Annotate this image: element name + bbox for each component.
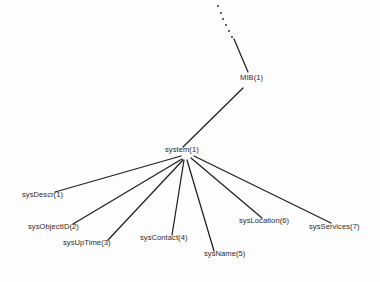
- ancestor-dot-3: [225, 24, 227, 26]
- mib-tree-diagram: MIB(1) system(1) sysDescr(1) sysObjectID…: [0, 0, 380, 282]
- edge-system-to-sys_uptime: [108, 160, 183, 240]
- node-label-sys-contact: sysContact(4): [140, 233, 188, 242]
- edge-system-to-sys_services: [194, 156, 331, 223]
- node-label-sys-location: sysLocation(6): [239, 216, 289, 225]
- node-label-sys-object-id: sysObjectID(2): [28, 222, 79, 231]
- node-label-mib: MIB(1): [240, 73, 263, 82]
- ancestor-dot-1: [220, 12, 222, 14]
- ancestor-dot-2: [222, 18, 224, 20]
- node-label-sys-uptime: sysUpTime(3): [63, 238, 111, 247]
- edge-mib-to-system: [183, 88, 243, 147]
- edge-system-to-sys_descr: [55, 156, 181, 192]
- ancestor-dot-4: [228, 30, 230, 32]
- node-label-system: system(1): [165, 145, 199, 154]
- ancestor-dot-0: [217, 5, 219, 7]
- ancestor-dot-5: [231, 36, 233, 38]
- dashed-ancestor-line: [217, 5, 233, 38]
- node-label-sys-services: sysServices(7): [309, 222, 360, 231]
- edge-ancestor-to-mib: [234, 39, 248, 72]
- node-label-sys-descr: sysDescr(1): [22, 190, 63, 199]
- edge-system-to-sys_object_id: [73, 159, 182, 224]
- edge-system-to-sys_contact: [172, 160, 184, 235]
- node-label-sys-name: sysName(5): [204, 249, 245, 258]
- tree-edges-layer: [0, 0, 380, 282]
